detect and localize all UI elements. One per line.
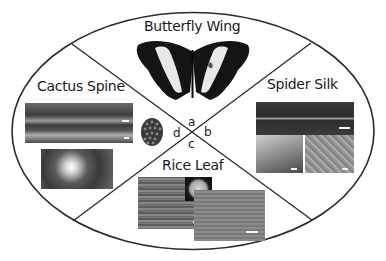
section-title-rice-leaf: Rice Leaf [162, 157, 223, 173]
rice-leaf-micrograph-3 [194, 190, 265, 241]
scale-bar [339, 127, 350, 129]
scale-bar [291, 168, 297, 170]
section-letter-b: b [204, 126, 212, 138]
cactus-spine-micrograph-1 [25, 103, 133, 143]
cactus-cluster-image [141, 118, 163, 146]
section-letter-c: c [188, 138, 195, 150]
section-title-cactus-spine: Cactus Spine [37, 78, 125, 94]
spider-silk-micrograph-1 [256, 102, 354, 135]
section-letter-d: d [173, 127, 181, 139]
bioinspired-diagram: Butterfly Wing Spider Silk Rice Leaf Cac… [0, 0, 386, 261]
section-letter-a: a [188, 116, 195, 128]
spider-silk-micrograph-2 [256, 135, 303, 173]
scale-bar [342, 168, 348, 170]
section-title-butterfly-wing: Butterfly Wing [144, 18, 240, 34]
scale-bar [246, 231, 258, 233]
cactus-spine-micrograph-2 [41, 149, 113, 189]
spider-silk-micrograph-3 [305, 135, 354, 173]
section-title-spider-silk: Spider Silk [267, 76, 338, 92]
scale-bar [124, 137, 129, 139]
scale-bar [122, 120, 129, 122]
